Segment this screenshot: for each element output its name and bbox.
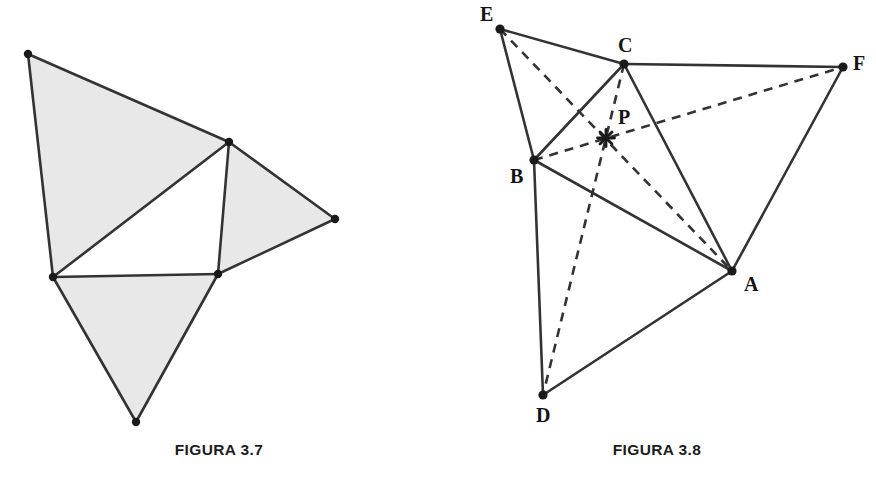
- vertex-dot-f: [838, 62, 847, 71]
- vertex-dot-right: [331, 215, 339, 223]
- vertex-dot-lower-middle: [214, 270, 222, 278]
- edge-B-D: [534, 160, 543, 395]
- figure-3-8-drawing: [438, 0, 876, 440]
- edge-E-C: [500, 29, 624, 64]
- vertex-label-c: C: [618, 35, 632, 55]
- vertex-label-d: D: [536, 405, 550, 425]
- solid-edges-group: [500, 29, 843, 395]
- vertex-dot-upper-middle: [225, 138, 233, 146]
- vertex-dot-b: [529, 155, 538, 164]
- vertex-dot-c: [619, 59, 628, 68]
- vertex-dot-e: [495, 24, 504, 33]
- edge-F-A: [732, 67, 843, 271]
- figure-caption-3-8: FIGURA 3.8: [438, 441, 876, 459]
- point-p-star-marker: [598, 130, 615, 147]
- figure-page: FIGURA 3.7 ABCDEFP FIGURA 3.8: [0, 0, 876, 494]
- vertex-label-p: P: [618, 107, 630, 127]
- vertex-dot-top-left: [24, 50, 32, 58]
- figure-3-7-drawing: [0, 0, 438, 440]
- concurrency-star-marker: [598, 130, 615, 147]
- vertex-label-b: B: [510, 166, 523, 186]
- region-right-shaded-triangle: [218, 142, 335, 274]
- dashed-cevians-group: [500, 29, 843, 395]
- star-core: [603, 135, 609, 141]
- region-bottom-shaded-triangle: [53, 274, 218, 422]
- figure-panel-3-8: ABCDEFP FIGURA 3.8: [438, 0, 876, 494]
- vertex-label-e: E: [480, 4, 493, 24]
- vertex-dot-left-middle: [49, 273, 57, 281]
- cevian-C-D: [543, 64, 624, 395]
- vertex-dot-d: [538, 390, 547, 399]
- vertex-dot-a: [727, 266, 736, 275]
- shaded-regions-group: [28, 54, 335, 422]
- vertex-dot-bottom-apex: [132, 418, 140, 426]
- edge-E-B: [500, 29, 534, 160]
- figure-panel-3-7: FIGURA 3.7: [0, 0, 438, 494]
- edge-C-F: [624, 64, 843, 67]
- figure-caption-3-7: FIGURA 3.7: [0, 441, 438, 459]
- vertex-label-a: A: [744, 274, 758, 294]
- vertex-label-f: F: [853, 53, 865, 73]
- edge-D-A: [543, 271, 732, 395]
